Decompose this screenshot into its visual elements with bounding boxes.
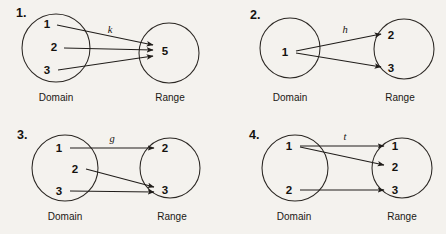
domain-caption: Domain [48,211,82,222]
range-element-label: 3 [392,184,398,196]
mapping-name-label: h [342,24,347,35]
range-circle [372,138,432,198]
domain-element-label: 2 [51,41,57,53]
range-element-label: 2 [162,142,168,154]
range-element-label: 2 [392,161,398,173]
mapping-arrow [57,25,153,45]
mapping-name-label: t [344,131,348,142]
range-circle [374,19,434,79]
range-caption: Range [387,211,417,222]
mapping-name-label: k [108,24,113,35]
range-caption: Range [385,92,415,103]
range-circle [140,138,200,198]
domain-element-label: 1 [286,140,293,152]
panel-1: 1.1235kDomainRange [16,6,199,103]
range-element-label: 2 [388,29,394,41]
mapping-arrow [300,147,384,165]
range-caption: Range [157,211,187,222]
panels-layer: 1.1235kDomainRange2.123hDomainRange3.123… [16,6,434,222]
domain-element-label: 2 [286,184,292,196]
domain-element-label: 1 [282,46,289,58]
mapping-diagram-figure: 1.1235kDomainRange2.123hDomainRange3.123… [0,0,446,234]
domain-element-label: 1 [44,18,51,30]
panel-number-label: 3. [17,128,27,142]
range-element-label: 3 [388,62,394,74]
panel-number-label: 4. [249,128,259,142]
range-circle [139,23,199,83]
mapping-arrow [296,34,381,51]
domain-circle [262,135,328,201]
range-element-label: 1 [392,140,399,152]
range-element-label: 5 [162,45,169,57]
panel-number-label: 1. [16,6,26,20]
mapping-diagram-canvas: 1.1235kDomainRange2.123hDomainRange3.123… [0,0,446,234]
mapping-arrow [58,56,153,70]
domain-element-label: 2 [72,163,78,175]
domain-caption: Domain [39,92,73,103]
domain-element-label: 3 [56,185,62,197]
panel-4: 4.12123tDomainRange [249,128,432,222]
domain-caption: Domain [273,92,307,103]
range-element-label: 3 [162,184,168,196]
mapping-arrow [296,53,381,67]
domain-element-label: 1 [56,142,63,154]
domain-caption: Domain [277,211,311,222]
panel-2: 2.123hDomainRange [250,8,434,103]
domain-element-label: 3 [44,64,50,76]
mapping-arrow [70,191,154,192]
panel-number-label: 2. [250,8,260,22]
range-caption: Range [155,92,185,103]
panel-3: 3.12323gDomainRange [17,128,200,222]
mapping-name-label: g [109,133,114,144]
